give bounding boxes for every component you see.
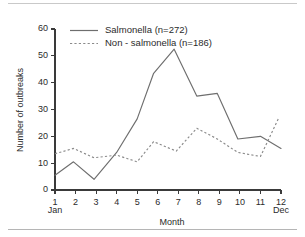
y-tick-label-50: 50	[38, 50, 48, 60]
x-tick-label-3: 3	[94, 197, 99, 207]
y-tick-label-40: 40	[38, 77, 48, 87]
x-tick-label-7: 7	[176, 197, 181, 207]
legend-label-non-salmonella: Non - salmonella (n=186)	[105, 37, 212, 48]
series-layer	[55, 49, 281, 179]
x-tick-label-2: 2	[73, 197, 78, 207]
x-axis-left-edge-label: Jan	[48, 205, 63, 215]
legend: Salmonella (n=272) Non - salmonella (n=1…	[70, 24, 212, 48]
legend-label-salmonella: Salmonella (n=272)	[105, 24, 188, 35]
x-axis-right-edge-label: Dec	[273, 205, 290, 215]
line-chart: 0102030405060 123456789101112 Jan Dec Mo…	[0, 0, 305, 237]
x-tick-label-11: 11	[256, 197, 265, 207]
x-tick-label-8: 8	[196, 197, 201, 207]
x-axis-title: Month	[159, 217, 184, 227]
y-tick-label-0: 0	[43, 184, 48, 194]
x-tick-label-9: 9	[217, 197, 222, 207]
y-tick-label-60: 60	[38, 23, 48, 33]
x-tick-label-5: 5	[135, 197, 140, 207]
x-tick-label-4: 4	[114, 197, 119, 207]
series-line-non-salmonella	[55, 118, 279, 162]
y-axis-tick-labels: 0102030405060	[38, 23, 48, 194]
x-tick-label-6: 6	[155, 197, 160, 207]
x-tick-label-10: 10	[235, 197, 245, 207]
y-tick-label-30: 30	[38, 104, 48, 114]
x-axis-tick-labels: 123456789101112	[52, 197, 286, 207]
y-axis-title: Number of outbreaks	[15, 67, 25, 152]
series-line-salmonella	[55, 49, 281, 179]
figure-container: 0102030405060 123456789101112 Jan Dec Mo…	[0, 0, 305, 237]
y-tick-label-10: 10	[38, 158, 48, 168]
axes-group	[55, 29, 281, 190]
y-tick-label-20: 20	[38, 131, 48, 141]
